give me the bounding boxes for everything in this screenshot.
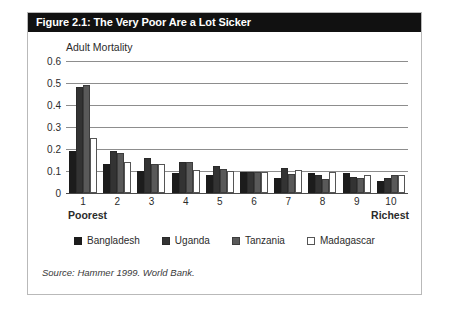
bar-uganda-2 — [110, 151, 117, 193]
legend-item-madagascar: Madagascar — [307, 235, 375, 246]
bar-bangladesh-1 — [69, 151, 76, 193]
x-axis-tick-label: 7 — [286, 196, 292, 207]
bar-bangladesh-3 — [137, 171, 144, 193]
bar-madagascar-8 — [329, 172, 336, 193]
bar-uganda-10 — [384, 178, 391, 193]
bar-bangladesh-9 — [343, 173, 350, 193]
legend-label: Uganda — [175, 235, 210, 246]
bar-uganda-7 — [281, 168, 288, 193]
bar-madagascar-4 — [193, 170, 200, 193]
legend-swatch-icon — [162, 237, 170, 245]
x-axis-tick-label: 10 — [385, 196, 396, 207]
x-axis-tick-label: 4 — [183, 196, 189, 207]
bar-tanzania-1 — [83, 85, 90, 193]
y-axis-tick-label: 0.3 — [39, 122, 61, 133]
bar-group — [66, 61, 100, 193]
bar-uganda-1 — [76, 87, 83, 193]
bar-madagascar-9 — [364, 175, 371, 193]
y-axis-tick-label: 0.1 — [39, 166, 61, 177]
figure-title-bar: Figure 2.1: The Very Poor Are a Lot Sick… — [28, 13, 421, 32]
x-axis-tick-label: 5 — [217, 196, 223, 207]
bar-madagascar-5 — [227, 171, 234, 193]
legend-swatch-icon — [232, 237, 240, 245]
bar-group — [340, 61, 374, 193]
bar-madagascar-3 — [158, 164, 165, 193]
bar-uganda-5 — [213, 166, 220, 194]
bar-uganda-3 — [144, 158, 151, 193]
chart-axis-title: Adult Mortality — [66, 41, 133, 53]
bar-bangladesh-10 — [377, 181, 384, 193]
bar-madagascar-1 — [90, 138, 97, 193]
bar-tanzania-8 — [322, 179, 329, 193]
figure-container: Figure 2.1: The Very Poor Are a Lot Sick… — [27, 12, 422, 295]
y-axis-tick-label: 0 — [39, 188, 61, 199]
bar-tanzania-6 — [254, 172, 261, 193]
plot-area: 00.10.20.30.40.50.6 — [66, 61, 408, 193]
bar-madagascar-7 — [295, 170, 302, 193]
bar-group — [169, 61, 203, 193]
y-axis-tick-label: 0.2 — [39, 144, 61, 155]
bar-bangladesh-6 — [240, 172, 247, 193]
bar-group — [271, 61, 305, 193]
y-axis-tick-label: 0.6 — [39, 56, 61, 67]
legend-item-tanzania: Tanzania — [232, 235, 285, 246]
poorest-label: Poorest — [68, 209, 107, 221]
bar-uganda-9 — [350, 177, 357, 194]
bar-tanzania-7 — [288, 174, 295, 193]
legend-swatch-icon — [307, 237, 315, 245]
source-note: Source: Hammer 1999. World Bank. — [42, 267, 195, 278]
bar-bangladesh-4 — [172, 173, 179, 193]
x-axis-tick-label: 6 — [251, 196, 257, 207]
x-axis-tick-label: 8 — [320, 196, 326, 207]
x-axis-tick-label: 1 — [80, 196, 86, 207]
bar-tanzania-10 — [391, 175, 398, 193]
legend-label: Bangladesh — [87, 235, 140, 246]
bar-madagascar-2 — [124, 162, 131, 193]
x-axis-tick-label: 2 — [115, 196, 121, 207]
legend-label: Madagascar — [320, 235, 375, 246]
bar-uganda-4 — [179, 162, 186, 193]
legend-swatch-icon — [74, 237, 82, 245]
legend-item-bangladesh: Bangladesh — [74, 235, 140, 246]
bar-uganda-8 — [315, 175, 322, 193]
bar-uganda-6 — [247, 172, 254, 193]
bar-group — [100, 61, 134, 193]
bar-group — [305, 61, 339, 193]
bar-tanzania-2 — [117, 153, 124, 193]
bar-bangladesh-5 — [206, 175, 213, 193]
bar-group — [237, 61, 271, 193]
bar-tanzania-9 — [357, 178, 364, 193]
x-axis-tick-label: 3 — [149, 196, 155, 207]
legend-label: Tanzania — [245, 235, 285, 246]
bar-tanzania-3 — [151, 164, 158, 193]
y-axis-tick-label: 0.4 — [39, 100, 61, 111]
x-axis-tick-label: 9 — [354, 196, 360, 207]
richest-label: Richest — [371, 209, 409, 221]
y-axis-tick-label: 0.5 — [39, 78, 61, 89]
bar-bangladesh-7 — [274, 178, 281, 193]
x-axis-line — [66, 193, 408, 194]
bar-group — [203, 61, 237, 193]
bar-madagascar-10 — [398, 175, 405, 193]
bar-bangladesh-2 — [103, 164, 110, 193]
bar-group — [134, 61, 168, 193]
chart-legend: BangladeshUgandaTanzaniaMadagascar — [28, 235, 421, 246]
bar-group — [374, 61, 408, 193]
legend-item-uganda: Uganda — [162, 235, 210, 246]
bar-tanzania-5 — [220, 169, 227, 193]
bar-tanzania-4 — [186, 162, 193, 193]
bar-madagascar-6 — [261, 172, 268, 193]
bar-bangladesh-8 — [308, 173, 315, 193]
figure-title: Figure 2.1: The Very Poor Are a Lot Sick… — [36, 16, 251, 28]
